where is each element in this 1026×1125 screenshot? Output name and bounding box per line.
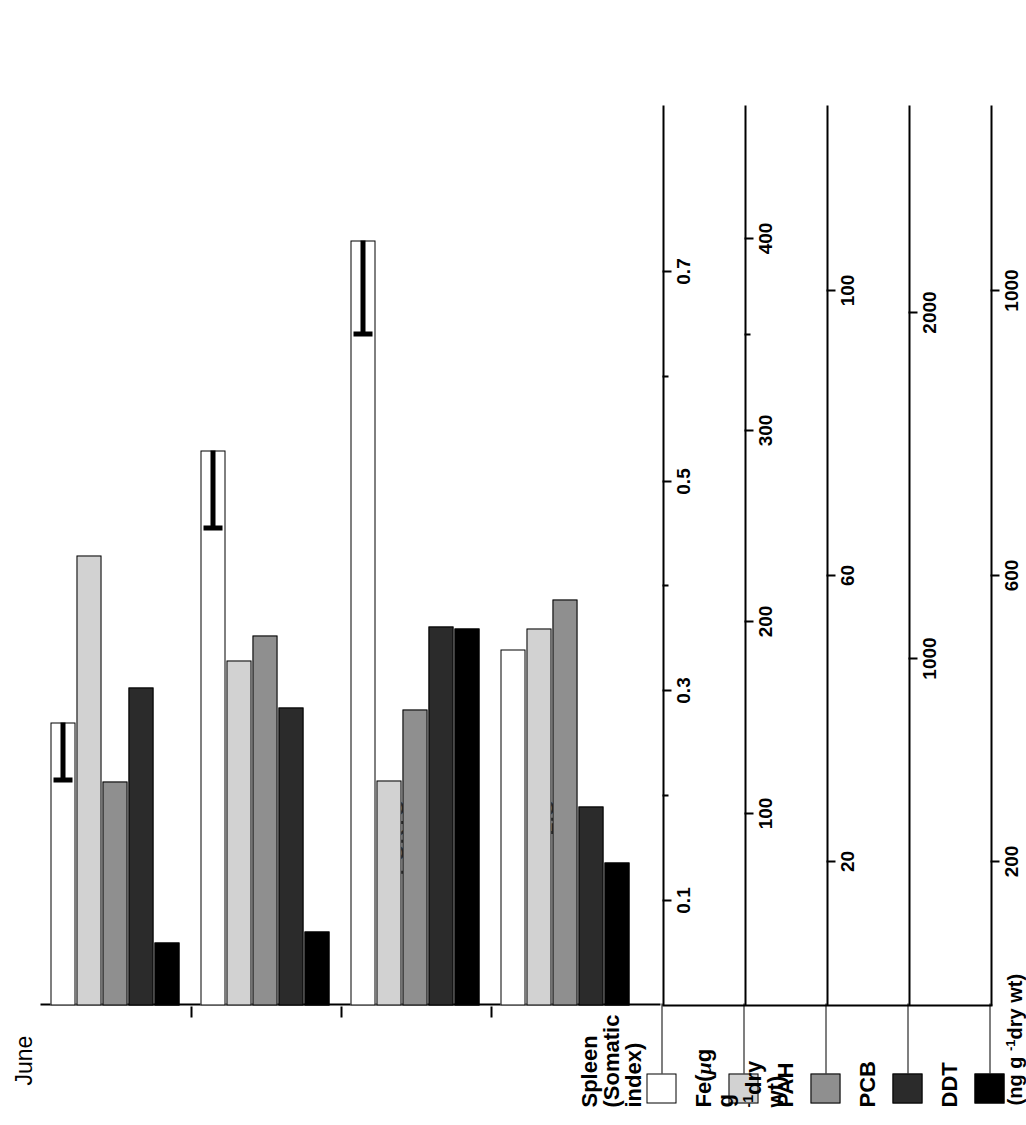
legend-label-pcb: PCB [856,1061,878,1107]
legend-label-fe: Fe(μg g -1dry wt) [692,1048,786,1107]
legend-leader-pcb [907,1003,908,1073]
legend-leader-pah [825,1003,826,1073]
legend-swatch-ddt-icon [974,1073,1004,1103]
legend-leader-fe [743,1003,744,1073]
legend-swatch-spleen-icon [646,1073,676,1103]
axis-spleen-tick-0.3: 0.3 [673,677,692,703]
axis-ddt-tick-200: 200 [1001,845,1020,877]
unit-ng-suffix: dry wt) [1004,973,1026,1039]
bar-porto-marghera-pcb[interactable] [428,626,453,1005]
bar-lio-grande-spleen[interactable] [500,649,525,1005]
axis-pah-tick-100: 100 [837,274,856,306]
axis-pcb-tick-2000: 2000 [919,291,938,333]
axis-fe: 100 200 300 400 [744,105,746,1005]
legend-leader-ddt [989,1003,990,1073]
legend-fe-mu: μ [690,1062,715,1074]
bar-lio-grande-ddt[interactable] [604,862,629,1005]
legend-fe-exponent: -1 [739,1095,755,1107]
bar-porto-marghera-pah[interactable] [402,709,427,1005]
category-tick [190,1006,192,1017]
bar-lio-grande-pcb[interactable] [578,806,603,1005]
category-tick [340,1006,342,1017]
axis-pcb: 1000 2000 [908,105,910,1005]
bar-crevan-fe[interactable] [76,555,101,1005]
bar-porto-marghera-spleen[interactable] [350,240,375,1005]
category-tick [490,1006,492,1017]
bar-torcello-fe[interactable] [226,660,251,1005]
axis-ladder: 0.1 0.3 0.5 0.7 100 200 [662,105,1002,1005]
bar-torcello-spleen[interactable] [200,450,225,1005]
unit-ng-prefix: (ng g [1004,1051,1026,1105]
axis-pah: 20 60 100 [826,105,828,1005]
axis-spleen: 0.1 0.3 0.5 0.7 [662,105,664,1005]
legend-leader-spleen [661,1003,662,1073]
bar-lio-grande-fe[interactable] [526,628,551,1005]
legend-spleen-line1: Spleen [576,1035,601,1107]
axis-pah-tick-20: 20 [837,850,856,871]
legend-spleen-line2: (Somatic index) [598,1014,645,1107]
axis-fe-tick-300: 300 [755,414,774,446]
axis-spleen-tick-0.7: 0.7 [673,258,692,284]
bar-crevan-pcb[interactable] [128,687,153,1005]
axis-ladder-spine [662,1004,992,1006]
unit-ng-exponent: -1 [1002,1039,1017,1051]
plot-area: CREVAN [40,105,660,1005]
axis-ddt-tick-600: 600 [1001,559,1020,591]
axis-fe-tick-100: 100 [755,797,774,829]
axis-pah-tick-60: 60 [837,564,856,585]
axis-fe-tick-400: 400 [755,222,774,254]
bar-lio-grande-pah[interactable] [552,599,577,1005]
axis-spleen-tick-0.1: 0.1 [673,887,692,913]
bar-torcello-pah[interactable] [252,635,277,1005]
bar-torcello-ddt[interactable] [304,931,329,1005]
bar-crevan-ddt[interactable] [154,942,179,1005]
bar-torcello-pcb[interactable] [278,707,303,1005]
bar-crevan-pah[interactable] [102,781,127,1005]
axis-ddt-tick-1000: 1000 [1001,269,1020,311]
legend-label-spleen: Spleen(Somatic index) [578,1014,644,1107]
axis-fe-tick-200: 200 [755,605,774,637]
bar-porto-marghera-ddt[interactable] [454,628,479,1005]
axis-pcb-tick-1000: 1000 [919,637,938,679]
legend-swatch-pcb-icon [892,1073,922,1103]
axis-spleen-tick-0.5: 0.5 [673,468,692,494]
legend-fe-prefix: Fe( [690,1074,715,1107]
legend-swatch-pah-icon [810,1073,840,1103]
panel-title: June [12,1035,35,1085]
bar-porto-marghera-fe[interactable] [376,780,401,1005]
axis-ddt: 200 600 1000 [990,105,992,1005]
legend-label-ddt: DDT [938,1062,960,1107]
